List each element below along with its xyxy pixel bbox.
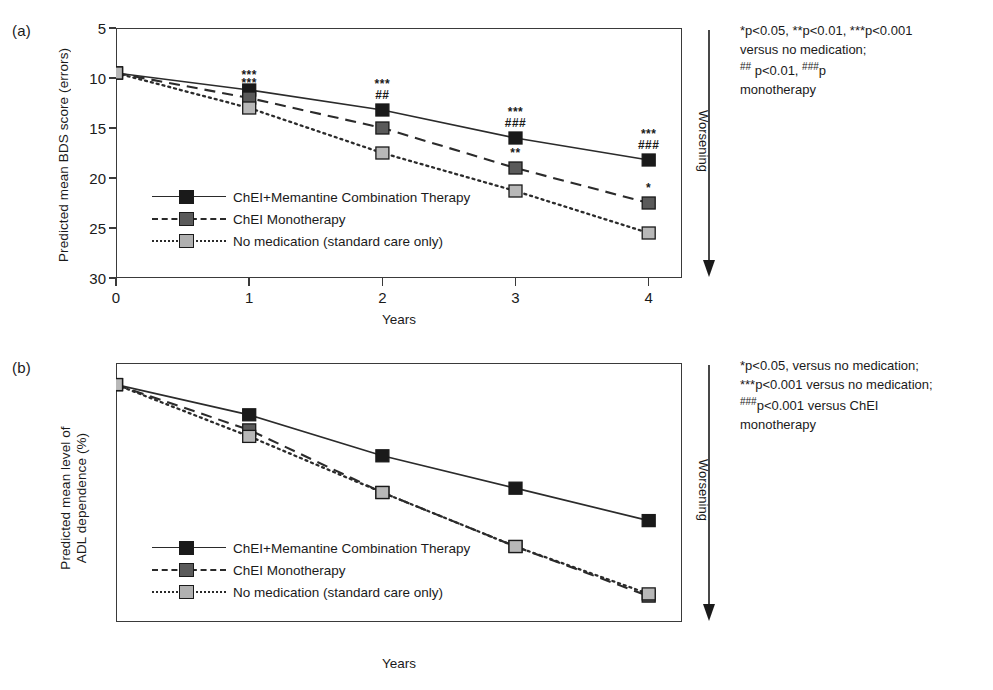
y-tick-mark <box>109 27 116 29</box>
panel-a-y-axis-label: Predicted mean BDS score (errors) <box>56 32 71 278</box>
panel-b-x-axis-label: Years <box>116 656 682 671</box>
note-line: ## p<0.01, ###p <box>740 60 975 81</box>
panel-a-legend: ChEI+Memantine Combination TherapyChEI M… <box>152 186 470 252</box>
panel-a-worsening-label: Worsening <box>696 110 711 172</box>
panel-b-worsening-label: Worsening <box>696 459 711 521</box>
legend-key <box>152 190 226 204</box>
x-tick-label: 0 <box>104 289 128 306</box>
y-tick-label: 20 <box>72 170 106 187</box>
legend-item[interactable]: ChEI Monotherapy <box>152 208 470 230</box>
y-tick-mark <box>109 177 116 179</box>
note-line: monotherapy <box>740 416 975 435</box>
x-tick-mark <box>115 278 117 286</box>
panel-b-legend: ChEI+Memantine Combination TherapyChEI M… <box>152 537 470 603</box>
y-axis-label-line: ADL dependence (%) <box>74 373 90 623</box>
y-tick-label: 5 <box>72 20 106 37</box>
significance-annotation: ***## <box>375 79 391 102</box>
legend-item[interactable]: ChEI+Memantine Combination Therapy <box>152 186 470 208</box>
significance-annotation: *** <box>241 78 257 89</box>
significance-annotation: ** <box>510 148 520 159</box>
legend-marker <box>179 234 194 248</box>
legend-marker <box>179 563 194 577</box>
x-tick-label: 1 <box>237 289 261 306</box>
x-tick-label: 2 <box>370 289 394 306</box>
legend-item[interactable]: ChEI+Memantine Combination Therapy <box>152 537 470 559</box>
panel-a-significance-note: *p<0.05, **p<0.01, ***p<0.001versus no m… <box>740 22 975 100</box>
note-line: *p<0.05, **p<0.01, ***p<0.001 <box>740 22 975 41</box>
legend-label: No medication (standard care only) <box>233 234 443 249</box>
note-line: ***p<0.001 versus no medication; <box>740 376 975 395</box>
y-tick-label: 25 <box>72 220 106 237</box>
legend-key <box>152 212 226 226</box>
legend-item[interactable]: ChEI Monotherapy <box>152 559 470 581</box>
significance-annotation: ***### <box>638 129 660 152</box>
legend-marker <box>179 212 194 226</box>
panel-a: (a) Predicted mean BDS score (errors) 51… <box>0 0 993 345</box>
legend-key <box>152 234 226 248</box>
significance-annotation: * <box>646 183 651 194</box>
legend-key <box>152 541 226 555</box>
panel-b-significance-note: *p<0.05, versus no medication;***p<0.001… <box>740 357 975 435</box>
panel-b-y-axis-label: Predicted mean level ofADL dependence (%… <box>58 373 89 623</box>
legend-marker <box>179 541 194 555</box>
y-tick-mark <box>109 77 116 79</box>
legend-label: ChEI+Memantine Combination Therapy <box>233 541 470 556</box>
legend-key <box>152 563 226 577</box>
significance-annotation: ** <box>377 108 387 119</box>
legend-item[interactable]: No medication (standard care only) <box>152 581 470 603</box>
y-tick-label: 15 <box>72 120 106 137</box>
panel-b-tag: (b) <box>12 359 31 376</box>
panel-b: (b) Predicted mean level ofADL dependenc… <box>0 345 993 690</box>
y-tick-mark <box>109 127 116 129</box>
significance-annotation: ***### <box>505 107 527 130</box>
legend-label: ChEI Monotherapy <box>233 563 346 578</box>
x-tick-mark <box>515 278 517 286</box>
x-tick-mark <box>248 278 250 286</box>
legend-marker <box>179 190 194 204</box>
note-line: monotherapy <box>740 81 975 100</box>
y-axis-label-line: Predicted mean level of <box>58 373 74 623</box>
legend-marker <box>179 585 194 599</box>
x-tick-mark <box>648 278 650 286</box>
note-line: *p<0.05, versus no medication; <box>740 357 975 376</box>
panel-a-x-axis-label: Years <box>116 312 682 327</box>
panel-a-tag: (a) <box>12 22 31 39</box>
note-line: versus no medication; <box>740 41 975 60</box>
legend-item[interactable]: No medication (standard care only) <box>152 230 470 252</box>
legend-key <box>152 585 226 599</box>
y-tick-mark <box>109 227 116 229</box>
x-tick-label: 4 <box>637 289 661 306</box>
note-line: ###p<0.001 versus ChEI <box>740 395 975 416</box>
x-tick-label: 3 <box>504 289 528 306</box>
legend-label: No medication (standard care only) <box>233 585 443 600</box>
y-tick-label: 10 <box>72 70 106 87</box>
y-tick-label: 30 <box>72 270 106 287</box>
legend-label: ChEI+Memantine Combination Therapy <box>233 190 470 205</box>
x-tick-mark <box>382 278 384 286</box>
legend-label: ChEI Monotherapy <box>233 212 346 227</box>
